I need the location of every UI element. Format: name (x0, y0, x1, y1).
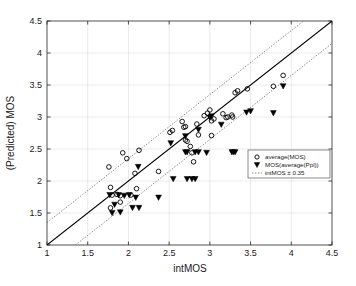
x-tick-label: 1 (44, 248, 49, 258)
legend-label[interactable]: MOS(average(Ppl)) (265, 161, 319, 168)
x-tick-label: 4 (289, 248, 294, 258)
y-tick-label: 2 (37, 176, 42, 186)
y-tick-label: 2.5 (29, 144, 42, 154)
x-tick-label: 3 (207, 248, 212, 258)
y-axis-title: (Predicted) MOS (5, 95, 16, 170)
y-tick-label: 1.5 (29, 208, 42, 218)
y-tick-label: 3.5 (29, 80, 42, 90)
chart-background (0, 0, 356, 286)
y-tick-label: 1 (37, 240, 42, 250)
scatter-plot: 11.522.533.544.511.522.533.544.5 average… (0, 0, 356, 286)
x-tick-label: 1.5 (81, 248, 94, 258)
legend-label[interactable]: average(MOS) (265, 153, 306, 160)
x-tick-label: 2 (126, 248, 131, 258)
chart-figure: 11.522.533.544.511.522.533.544.5 average… (0, 0, 356, 286)
x-tick-label: 2.5 (163, 248, 176, 258)
legend[interactable]: average(MOS)MOS(average(Ppl))intMOS ± 0.… (248, 150, 330, 178)
y-tick-label: 4 (37, 48, 42, 58)
x-tick-label: 4.5 (326, 248, 339, 258)
y-tick-label: 3 (37, 112, 42, 122)
x-axis-title: intMOS (173, 263, 207, 274)
legend-label[interactable]: intMOS ± 0.35 (265, 169, 305, 176)
x-tick-label: 3.5 (244, 248, 257, 258)
y-tick-label: 4.5 (29, 16, 42, 26)
